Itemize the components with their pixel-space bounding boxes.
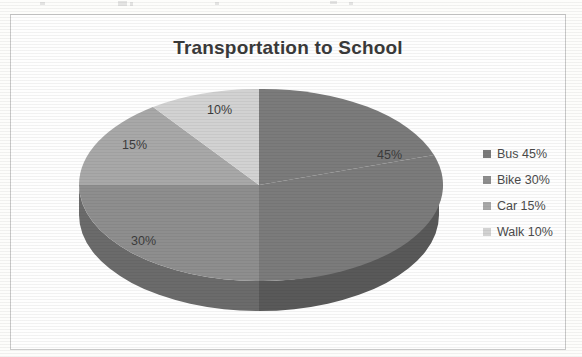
legend-label-car: Car 15% xyxy=(497,199,546,213)
chart-frame: Transportation to School xyxy=(10,14,566,350)
legend-item-car[interactable]: Car 15% xyxy=(483,199,553,213)
pie-data-label-walk: 10% xyxy=(207,103,232,117)
chart-legend: Bus 45% Bike 30% Car 15% Walk 10% xyxy=(483,147,553,239)
pie-data-label-car: 15% xyxy=(122,138,147,152)
legend-swatch-bike xyxy=(483,176,491,184)
legend-item-bike[interactable]: Bike 30% xyxy=(483,173,553,187)
legend-label-walk: Walk 10% xyxy=(497,225,553,239)
pie-data-label-bike: 30% xyxy=(131,234,156,248)
scan-artifacts xyxy=(0,0,582,12)
legend-label-bike: Bike 30% xyxy=(497,173,550,187)
pie-top-face xyxy=(79,89,443,281)
legend-item-walk[interactable]: Walk 10% xyxy=(483,225,553,239)
legend-swatch-car xyxy=(483,202,491,210)
legend-item-bus[interactable]: Bus 45% xyxy=(483,147,553,161)
pie-data-label-bus: 45% xyxy=(377,148,402,162)
legend-swatch-bus xyxy=(483,150,491,158)
pie-slice-bike xyxy=(79,185,259,281)
legend-swatch-walk xyxy=(483,228,491,236)
legend-label-bus: Bus 45% xyxy=(497,147,547,161)
